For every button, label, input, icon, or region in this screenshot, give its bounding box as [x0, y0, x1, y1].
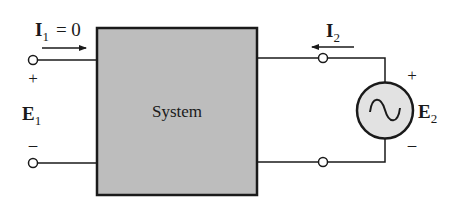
right-bottom-wire-outer [328, 139, 386, 162]
left-bottom-terminal [29, 159, 38, 168]
i2-subscript: 2 [333, 30, 340, 45]
i1-value: = 0 [56, 19, 81, 40]
e1-minus-sign: – [28, 135, 38, 154]
left-port: I1= 0 + E1 – [22, 19, 97, 168]
e2-symbol: E [418, 101, 431, 122]
left-top-terminal [29, 56, 38, 65]
e1-label: E1 [22, 103, 41, 128]
e2-label: E2 [418, 101, 437, 126]
i1-symbol: I [35, 19, 42, 40]
two-port-system-diagram: System I1= 0 + E1 – I2 + [0, 0, 461, 222]
i2-label: I2 [326, 20, 340, 45]
i1-label: I1= 0 [35, 19, 81, 44]
right-top-terminal [319, 54, 328, 63]
right-bottom-terminal [319, 158, 328, 167]
e1-subscript: 1 [35, 113, 42, 128]
system-block: System [97, 28, 257, 195]
e2-subscript: 2 [431, 111, 438, 126]
e2-plus-sign: + [407, 66, 417, 85]
right-port: I2 + E2 – [257, 20, 437, 167]
e1-plus-sign: + [28, 69, 38, 88]
e1-symbol: E [22, 103, 35, 124]
ac-source-icon [357, 83, 413, 139]
right-top-wire-outer [328, 58, 386, 82]
system-label: System [152, 102, 202, 121]
i2-symbol: I [326, 20, 333, 41]
i1-subscript: 1 [42, 29, 49, 44]
e2-minus-sign: – [407, 135, 417, 154]
